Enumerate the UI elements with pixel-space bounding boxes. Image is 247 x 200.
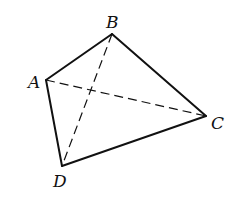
label-A: A xyxy=(26,72,40,92)
edge-AB xyxy=(46,34,112,80)
label-B: B xyxy=(105,12,119,32)
edge-CD xyxy=(62,116,206,166)
vertex-labels: A B C D xyxy=(26,12,224,191)
label-D: D xyxy=(52,171,67,191)
tetrahedron-diagram: A B C D xyxy=(0,0,247,200)
edge-DA xyxy=(46,80,62,166)
edge-AC-dashed xyxy=(46,80,206,116)
label-C: C xyxy=(211,113,224,133)
edge-BD-dashed xyxy=(62,34,112,166)
edge-BC xyxy=(112,34,206,116)
dashed-edges xyxy=(46,34,206,166)
